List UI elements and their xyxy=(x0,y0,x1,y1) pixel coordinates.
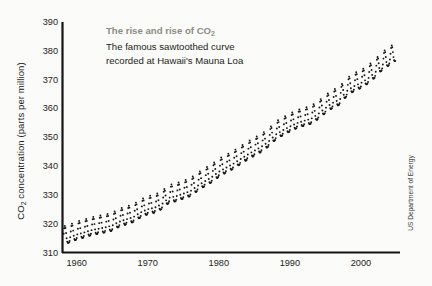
data-point xyxy=(390,53,392,55)
data-point xyxy=(200,172,202,174)
data-point xyxy=(306,106,308,108)
data-point xyxy=(258,147,260,149)
data-point xyxy=(65,227,67,229)
data-point xyxy=(211,180,213,182)
data-point xyxy=(115,217,117,219)
data-point xyxy=(178,182,180,184)
data-point xyxy=(339,98,341,100)
data-point xyxy=(208,178,210,180)
data-point xyxy=(206,166,208,168)
data-point xyxy=(155,201,157,203)
data-point xyxy=(212,170,214,172)
data-point xyxy=(196,190,198,192)
data-point xyxy=(234,149,236,151)
data-point xyxy=(354,79,356,81)
data-point xyxy=(332,102,334,104)
data-point xyxy=(111,228,113,230)
data-point xyxy=(285,122,287,124)
data-point xyxy=(249,140,251,142)
data-point xyxy=(282,133,284,135)
data-point xyxy=(243,156,245,158)
data-point xyxy=(205,174,207,176)
data-point xyxy=(197,185,199,187)
data-point xyxy=(176,195,178,197)
y-tick-label: 380 xyxy=(18,46,58,56)
data-point xyxy=(367,81,369,83)
chart-title-block: The rise and rise of CO2 The rise and ri… xyxy=(106,24,336,67)
data-point xyxy=(268,144,270,146)
data-point xyxy=(275,137,277,139)
data-point xyxy=(192,176,194,178)
data-point xyxy=(274,139,276,141)
data-point xyxy=(118,224,120,226)
data-point xyxy=(255,144,257,146)
data-point xyxy=(285,117,287,119)
data-point xyxy=(86,220,88,222)
data-point xyxy=(342,85,344,87)
data-point xyxy=(108,225,110,227)
data-point xyxy=(139,217,141,219)
data-point xyxy=(250,151,252,153)
data-point xyxy=(377,58,379,60)
data-point xyxy=(126,222,128,224)
data-point xyxy=(357,83,359,85)
data-point xyxy=(143,199,145,201)
data-point xyxy=(321,110,323,112)
data-point xyxy=(345,96,347,98)
data-point xyxy=(207,173,209,175)
data-point xyxy=(311,112,313,114)
data-point xyxy=(105,221,107,223)
data-point xyxy=(142,198,144,200)
data-point xyxy=(324,112,326,114)
y-tick-label: 310 xyxy=(18,248,58,258)
data-point xyxy=(211,176,213,178)
data-point xyxy=(362,68,364,70)
data-point xyxy=(292,118,294,120)
data-point xyxy=(317,118,319,120)
data-point xyxy=(325,107,327,109)
data-point xyxy=(79,222,81,224)
data-point xyxy=(271,127,273,129)
data-point xyxy=(204,184,206,186)
data-point xyxy=(292,113,294,115)
data-point xyxy=(391,46,393,48)
data-point xyxy=(101,227,103,229)
data-point xyxy=(331,107,333,109)
data-point xyxy=(296,126,298,128)
data-point xyxy=(221,163,223,165)
data-point xyxy=(79,227,81,229)
data-point xyxy=(107,215,109,217)
data-point xyxy=(327,93,329,95)
data-point xyxy=(239,162,241,164)
data-point xyxy=(381,67,383,69)
x-tick-label: 1990 xyxy=(260,258,320,268)
data-point xyxy=(107,213,109,215)
data-point xyxy=(320,98,322,100)
data-point xyxy=(317,116,319,118)
data-point xyxy=(169,197,171,199)
data-point xyxy=(278,121,280,123)
data-point xyxy=(179,194,181,196)
data-point xyxy=(334,88,336,90)
data-point xyxy=(304,114,306,116)
data-point xyxy=(242,144,244,146)
data-point xyxy=(375,65,377,67)
data-point xyxy=(163,188,165,190)
data-point xyxy=(169,191,171,193)
data-point xyxy=(94,228,96,230)
data-point xyxy=(204,180,206,182)
data-point xyxy=(108,220,110,222)
data-point xyxy=(157,194,159,196)
data-point xyxy=(91,224,93,226)
data-point xyxy=(164,190,166,192)
data-point xyxy=(272,137,274,139)
data-point xyxy=(150,202,152,204)
data-point xyxy=(236,160,238,162)
data-point xyxy=(151,207,153,209)
y-tick-label: 350 xyxy=(18,132,58,142)
data-point xyxy=(197,188,199,190)
data-point xyxy=(224,172,226,174)
data-point xyxy=(183,193,185,195)
x-tick-label: 1970 xyxy=(118,258,178,268)
data-point xyxy=(249,141,251,143)
